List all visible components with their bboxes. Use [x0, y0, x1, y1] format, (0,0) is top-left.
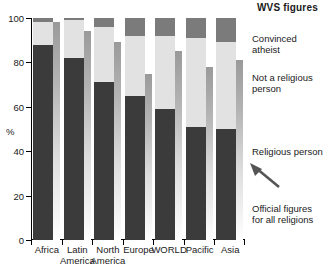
bar-segment-religious	[94, 82, 114, 240]
official-figures-bar	[145, 74, 152, 241]
bar-segment-not-religious	[94, 27, 114, 83]
bar-segment-religious	[33, 45, 53, 240]
stacked-bar[interactable]	[125, 18, 145, 240]
bar-segment-convinced-atheist	[125, 18, 145, 36]
official-figures-bar	[84, 31, 91, 240]
stacked-bar[interactable]	[155, 18, 175, 240]
legend-item-official-figures: Official figures for all religions	[252, 203, 324, 225]
bar-group[interactable]: North America	[94, 18, 122, 240]
official-figures-bar	[236, 60, 243, 240]
bar-segment-convinced-atheist	[94, 18, 114, 27]
x-tick	[244, 240, 245, 245]
bar-segment-convinced-atheist	[216, 18, 236, 42]
bar-group[interactable]: Latin America	[64, 18, 92, 240]
bar-segment-religious	[186, 127, 206, 240]
stacked-bar[interactable]	[64, 18, 84, 240]
bar-segment-not-religious	[186, 38, 206, 127]
legend-item-religious-person: Religious person	[252, 146, 323, 157]
stacked-bar[interactable]	[186, 18, 206, 240]
bar-group[interactable]: Europe	[125, 18, 153, 240]
bar-segment-not-religious	[64, 20, 84, 58]
official-figures-bar	[53, 22, 60, 240]
y-tick-label: 60	[13, 101, 24, 112]
y-tick-label: 40	[13, 146, 24, 157]
bar-segment-convinced-atheist	[64, 18, 84, 20]
bar-group[interactable]: Africa	[33, 18, 61, 240]
chart-title: WVS figures	[257, 2, 318, 13]
official-figures-bar	[114, 42, 121, 240]
official-figures-arrow	[246, 160, 282, 190]
bar-segment-not-religious	[216, 42, 236, 129]
bar-segment-not-religious	[155, 36, 175, 109]
x-tick-label: Asia	[211, 245, 249, 256]
official-figures-bar	[206, 67, 213, 240]
legend-item-not-religious-person: Not a religious person	[252, 72, 324, 94]
bar-segment-not-religious	[125, 36, 145, 96]
legend-item-convinced-atheist: Convinced atheist	[252, 33, 324, 55]
y-tick-label: 100	[8, 13, 24, 24]
bar-segment-religious	[125, 96, 145, 240]
bar-segment-convinced-atheist	[155, 18, 175, 36]
bar-segment-religious	[64, 58, 84, 240]
y-tick-label: 0	[19, 235, 24, 246]
bar-segment-religious	[155, 109, 175, 240]
y-tick-label: 20	[13, 190, 24, 201]
bar-group[interactable]: Pacific	[186, 18, 214, 240]
bar-segment-convinced-atheist	[186, 18, 206, 38]
stacked-bar[interactable]	[216, 18, 236, 240]
chart-root: WVS figures 020406080100 AfricaLatin Ame…	[0, 0, 326, 273]
stacked-bar[interactable]	[33, 18, 53, 240]
stacked-bar[interactable]	[94, 18, 114, 240]
bar-group[interactable]: WORLD	[155, 18, 183, 240]
y-tick-label: 80	[13, 57, 24, 68]
y-axis-label: %	[6, 126, 14, 137]
plot-area: 020406080100 AfricaLatin AmericaNorth Am…	[31, 18, 245, 240]
bar-segment-not-religious	[33, 22, 53, 44]
bar-segment-convinced-atheist	[33, 18, 53, 22]
official-figures-bar	[175, 51, 182, 240]
bar-segment-religious	[216, 129, 236, 240]
bar-groups: AfricaLatin AmericaNorth AmericaEuropeWO…	[31, 18, 245, 240]
bar-group[interactable]: Asia	[216, 18, 244, 240]
